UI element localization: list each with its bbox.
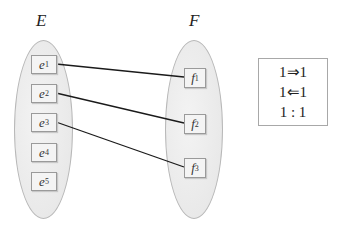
element-e5: e5 bbox=[31, 172, 57, 191]
link-e1-f1 bbox=[56, 64, 184, 77]
element-e4: e4 bbox=[31, 143, 57, 162]
link-e3-f3 bbox=[56, 122, 184, 167]
element-f1: f1 bbox=[184, 68, 206, 88]
legend-line-one-to-one: 1 : 1 bbox=[280, 102, 307, 122]
element-e3: e3 bbox=[31, 113, 57, 132]
element-e1: e1 bbox=[31, 55, 57, 74]
cardinality-legend: 1⇒1 1⇐1 1 : 1 bbox=[258, 58, 328, 126]
legend-line-backward: 1⇐1 bbox=[279, 82, 307, 102]
element-e2: e2 bbox=[31, 84, 57, 103]
legend-line-forward: 1⇒1 bbox=[279, 62, 307, 82]
element-f2: f2 bbox=[184, 114, 206, 134]
link-e2-f2 bbox=[56, 93, 184, 123]
element-f3: f3 bbox=[184, 158, 206, 178]
